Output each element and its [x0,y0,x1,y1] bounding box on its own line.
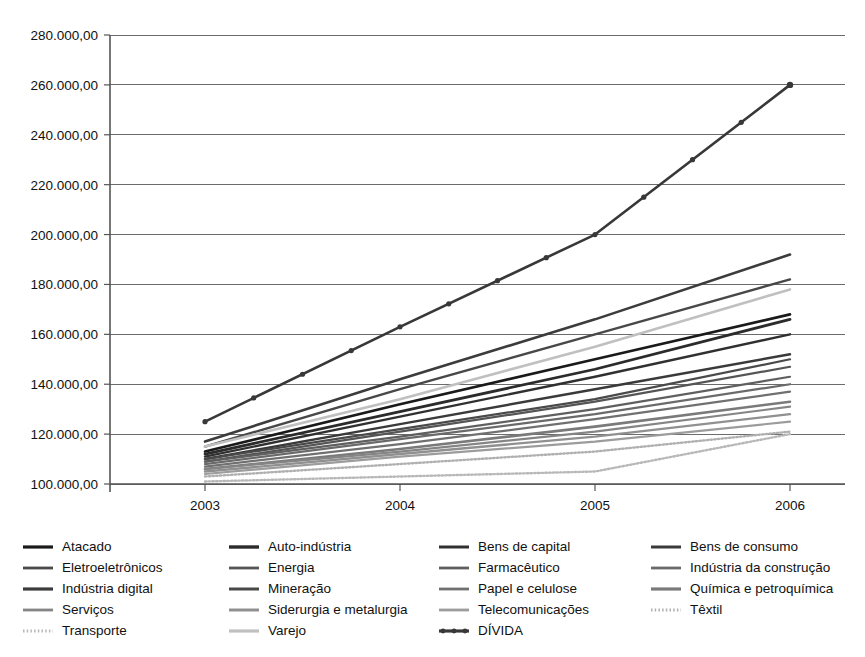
legend-swatch-icon [228,583,260,595]
x-axis-tick-label: 2006 [775,498,805,513]
series-marker [739,120,744,125]
legend-swatch-icon [22,562,54,574]
series-marker [495,278,500,283]
legend-column-2: Bens de capitalFarmacêuticoPapel e celul… [438,536,650,641]
series-marker [446,301,451,306]
x-axis-tick-label: 2004 [385,498,416,513]
legend-swatch-icon [22,541,54,553]
y-axis-tick-label: 240.000,00 [30,128,98,143]
legend-swatch-icon [438,625,470,637]
legend-item-label: Telecomunicações [478,599,589,620]
legend-swatch-icon [650,562,682,574]
legend-swatch-icon [438,583,470,595]
x-axis-tick-label: 2005 [580,498,610,513]
legend-swatch-icon [438,541,470,553]
legend-item-label: Atacado [62,536,112,557]
chart-page: 280.000,00260.000,00240.000,00220.000,00… [0,0,865,657]
legend-item[interactable]: Eletroeletrônicos [22,557,228,578]
legend-item[interactable]: Bens de capital [438,536,650,557]
y-axis-tick-label: 160.000,00 [30,327,98,342]
legend-item-label: Energia [268,557,315,578]
legend-swatch-icon [228,541,260,553]
legend-item[interactable]: Têxtil [650,599,865,620]
legend-item[interactable]: Siderurgia e metalurgia [228,599,438,620]
legend-item-label: Bens de consumo [690,536,798,557]
series-marker [690,157,695,162]
legend-swatch-icon [228,625,260,637]
legend-item-label: Varejo [268,620,306,641]
legend-item-label: Farmacêutico [478,557,560,578]
legend-item-label: Têxtil [690,599,722,620]
legend-item[interactable]: Farmacêutico [438,557,650,578]
legend-swatch-icon [22,625,54,637]
legend-item-label: Siderurgia e metalurgia [268,599,408,620]
legend-item[interactable]: Varejo [228,620,438,641]
series-marker [592,232,597,237]
series-marker [251,395,256,400]
y-axis-tick-label: 200.000,00 [30,228,98,243]
series-marker [787,82,793,88]
chart-legend: AtacadoEletroeletrônicosIndústria digita… [0,528,865,657]
y-axis-tick-label: 120.000,00 [30,427,98,442]
legend-item[interactable]: Transporte [22,620,228,641]
legend-item[interactable]: Química e petroquímica [650,578,865,599]
series-marker [202,419,207,424]
legend-item-label: Mineração [268,578,331,599]
y-axis-tick-label: 180.000,00 [30,277,98,292]
legend-item[interactable]: Bens de consumo [650,536,865,557]
legend-item-label: Indústria digital [62,578,153,599]
legend-item[interactable]: Serviços [22,599,228,620]
legend-swatch-icon [228,604,260,616]
series-marker [397,324,402,329]
y-axis-tick-label: 280.000,00 [30,28,98,43]
line-chart: 280.000,00260.000,00240.000,00220.000,00… [0,0,865,525]
legend-item-label: DÍVIDA [478,620,523,641]
legend-item[interactable]: Energia [228,557,438,578]
legend-item-label: Eletroeletrônicos [62,557,163,578]
legend-item[interactable]: Indústria da construção [650,557,865,578]
legend-item[interactable]: Mineração [228,578,438,599]
chart-plot-area: 280.000,00260.000,00240.000,00220.000,00… [0,0,865,525]
legend-swatch-icon [228,562,260,574]
legend-item-label: Papel e celulose [478,578,577,599]
legend-swatch-icon [438,604,470,616]
y-axis-tick-label: 140.000,00 [30,377,98,392]
series-marker [349,348,354,353]
x-axis-tick-label: 2003 [190,498,220,513]
legend-swatch-icon [438,562,470,574]
legend-item[interactable]: Telecomunicações [438,599,650,620]
legend-item[interactable]: Indústria digital [22,578,228,599]
legend-swatch-icon [22,583,54,595]
series-marker [641,195,646,200]
series-line [205,354,790,459]
legend-item-label: Auto-indústria [268,536,351,557]
series-marker [300,372,305,377]
legend-item-label: Indústria da construção [690,557,830,578]
legend-item-label: Serviços [62,599,114,620]
y-axis-tick-label: 100.000,00 [30,477,98,492]
legend-item[interactable]: Auto-indústria [228,536,438,557]
legend-item-label: Transporte [62,620,127,641]
legend-swatch-icon [650,604,682,616]
legend-column-3: Bens de consumoIndústria da construçãoQu… [650,536,865,620]
legend-swatch-icon [650,583,682,595]
legend-item[interactable]: DÍVIDA [438,620,650,641]
y-axis-tick-label: 260.000,00 [30,78,98,93]
legend-swatch-icon [650,541,682,553]
y-axis-tick-label: 220.000,00 [30,178,98,193]
legend-column-0: AtacadoEletroeletrônicosIndústria digita… [22,536,228,641]
series-line [205,279,790,446]
legend-column-1: Auto-indústriaEnergiaMineraçãoSiderurgia… [228,536,438,641]
legend-item[interactable]: Papel e celulose [438,578,650,599]
legend-swatch-icon [22,604,54,616]
legend-item[interactable]: Atacado [22,536,228,557]
legend-item-label: Bens de capital [478,536,570,557]
legend-item-label: Química e petroquímica [690,578,833,599]
series-marker [544,255,549,260]
